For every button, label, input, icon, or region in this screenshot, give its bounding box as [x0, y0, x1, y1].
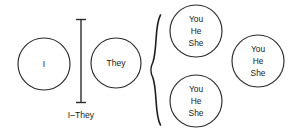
circle-top-line-2: He — [191, 26, 202, 36]
dimension-label: I–They — [68, 110, 95, 120]
circle-bottom-line-2: He — [191, 96, 202, 106]
circle-you-he-she-bottom-group[interactable]: You He She — [170, 75, 222, 127]
circle-top-line-3: She — [189, 38, 204, 48]
curly-brace-group — [151, 15, 161, 125]
circle-right-line-2: He — [253, 56, 264, 66]
circle-i-group[interactable]: I — [18, 38, 70, 90]
circle-top-line-1: You — [189, 14, 203, 24]
circle-you-he-she-right-group[interactable]: You He She — [232, 35, 284, 87]
circle-right-line-1: You — [251, 44, 265, 54]
circle-they-group[interactable]: They — [91, 38, 141, 88]
circle-i-label: I — [43, 59, 45, 69]
diagram-svg: I I–They They You He She You — [0, 0, 292, 135]
i-they-dimension-group: I–They — [68, 19, 95, 120]
circle-you-he-she-top-group[interactable]: You He She — [170, 5, 222, 57]
curly-brace-icon — [151, 15, 161, 125]
circle-they-label: They — [106, 58, 126, 68]
circle-bottom-line-1: You — [189, 84, 203, 94]
diagram-canvas: I I–They They You He She You — [0, 0, 292, 135]
circle-bottom-line-3: She — [189, 108, 204, 118]
circle-right-line-3: She — [251, 68, 266, 78]
